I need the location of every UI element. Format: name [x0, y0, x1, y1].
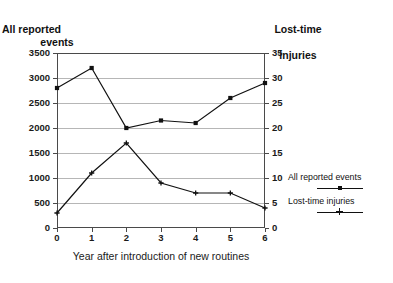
data-point-marker	[263, 81, 267, 85]
data-point-marker	[90, 66, 94, 70]
legend-item[interactable]: All reported events	[288, 172, 392, 193]
data-point-marker	[159, 118, 163, 122]
series-all-reported-events	[55, 66, 267, 130]
data-point-marker	[262, 205, 267, 210]
data-point-marker	[193, 190, 198, 195]
legend-item-cross-marker-icon	[317, 208, 363, 217]
chart-legend: All reported eventsLost-time injuries	[288, 172, 392, 220]
data-point-marker	[228, 190, 233, 195]
legend-item-square-marker-icon	[317, 184, 363, 193]
data-point-marker	[194, 121, 198, 125]
series-layer	[0, 0, 393, 283]
legend-item[interactable]: Lost-time injuries	[288, 196, 392, 217]
legend-item-label: All reported events	[288, 172, 392, 183]
data-point-marker	[55, 86, 59, 90]
data-point-marker	[228, 96, 232, 100]
series-lost-time-injuries	[54, 140, 267, 215]
legend-item-label: Lost-time injuries	[288, 196, 392, 207]
data-point-marker	[124, 126, 128, 130]
x-axis-label: Year after introduction of new routines	[28, 250, 294, 262]
chart-canvas: All reported events Lost-time injuries 3…	[0, 0, 393, 283]
series-line	[57, 143, 265, 213]
